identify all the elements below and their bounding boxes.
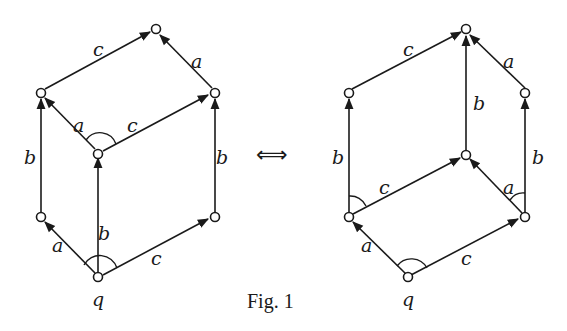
edge-mid-a xyxy=(45,98,95,149)
angle-arc-mid xyxy=(86,133,116,144)
node xyxy=(37,89,46,98)
label-bottom-a: a xyxy=(52,234,63,256)
node xyxy=(345,89,354,98)
label-top-c: c xyxy=(403,38,414,60)
label-right-b: b xyxy=(532,146,544,168)
label-start-q: q xyxy=(402,288,414,310)
node xyxy=(345,213,354,222)
label-center-b: b xyxy=(473,92,485,114)
left-diagram: c a a c b b b a c q xyxy=(24,25,228,311)
edge-mid-c xyxy=(353,158,460,214)
label-bottom-a: a xyxy=(361,234,372,256)
label-left-b: b xyxy=(332,146,344,168)
edge-top-a xyxy=(470,35,525,88)
label-top-c: c xyxy=(93,38,104,60)
label-right-b: b xyxy=(216,146,228,168)
node xyxy=(521,89,530,98)
label-mid-a: a xyxy=(73,114,84,136)
node xyxy=(37,213,46,222)
label-mid-c: c xyxy=(379,176,390,198)
label-left-b: b xyxy=(24,146,36,168)
start-node-q xyxy=(404,273,413,282)
label-mid-c: c xyxy=(127,114,138,136)
node xyxy=(211,89,220,98)
node xyxy=(521,213,530,222)
node xyxy=(94,150,103,159)
label-bottom-c: c xyxy=(461,247,472,269)
start-node-q xyxy=(94,273,103,282)
figure-caption: Fig. 1 xyxy=(247,290,294,313)
right-diagram: c a b b b c a a c q xyxy=(332,25,544,311)
angle-arc-bottom xyxy=(397,259,427,268)
label-top-a: a xyxy=(503,50,514,72)
figure-canvas: c a a c b b b a c q ⟺ c a b b xyxy=(0,0,567,331)
label-center-b: b xyxy=(98,222,110,244)
edge-top-a xyxy=(160,35,212,88)
label-bottom-c: c xyxy=(151,247,162,269)
label-start-q: q xyxy=(92,288,104,310)
node xyxy=(462,151,471,160)
label-mid-a: a xyxy=(503,176,514,198)
edge-mid-c xyxy=(103,95,208,151)
angle-arc-left xyxy=(349,196,366,206)
node xyxy=(211,213,220,222)
equivalence-symbol: ⟺ xyxy=(256,142,288,167)
node xyxy=(462,25,471,34)
label-top-a: a xyxy=(191,50,202,72)
node xyxy=(152,25,161,34)
